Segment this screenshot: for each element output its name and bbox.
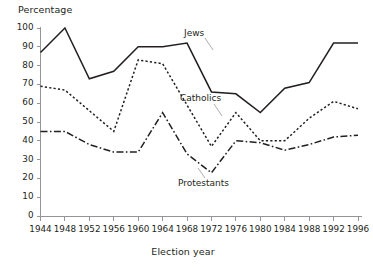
y-axis-tick-label: 50 bbox=[12, 116, 34, 126]
series-line-catholics bbox=[41, 60, 359, 146]
x-axis-title: Election year bbox=[0, 246, 366, 257]
leader-line-protestants bbox=[198, 168, 205, 178]
y-axis-tick-label: 70 bbox=[12, 78, 34, 88]
axis-layer bbox=[37, 27, 363, 221]
y-axis-tick-label: 40 bbox=[12, 135, 34, 145]
series-label-protestants: Protestants bbox=[178, 178, 229, 188]
series-label-jews: Jews bbox=[184, 28, 204, 38]
x-axis-tick-label: 1996 bbox=[343, 224, 373, 234]
y-axis-tick-label: 20 bbox=[12, 172, 34, 182]
series-label-catholics: Catholics bbox=[180, 93, 221, 103]
y-axis-tick-label: 100 bbox=[12, 22, 34, 32]
y-axis-tick-label: 30 bbox=[12, 154, 34, 164]
y-axis-tick-label: 10 bbox=[12, 191, 34, 201]
y-axis-tick-label: 90 bbox=[12, 41, 34, 51]
annotation-leader-lines bbox=[198, 38, 222, 178]
series-line-protestants bbox=[41, 113, 359, 173]
y-axis-tick-label: 0 bbox=[12, 210, 34, 220]
y-axis-tick-label: 60 bbox=[12, 97, 34, 107]
leader-line-jews bbox=[205, 38, 213, 50]
y-axis-tick-label: 80 bbox=[12, 60, 34, 70]
leader-line-catholics bbox=[214, 104, 222, 116]
